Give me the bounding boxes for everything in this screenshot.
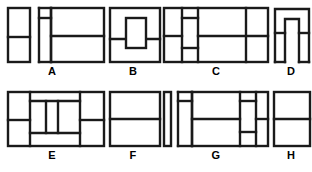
figure-art-b [108, 6, 162, 64]
figure-b-drawing [108, 6, 162, 64]
figure-cell-b: B [104, 0, 162, 86]
figure-a-drawing [6, 6, 106, 64]
figure-label-f: F [104, 150, 162, 161]
figure-cell-g: G [162, 86, 270, 172]
figure-art-a [6, 6, 106, 64]
figure-cell-c: C [162, 0, 270, 86]
figure-f-drawing [108, 90, 162, 148]
figure-label-c: C [162, 66, 270, 77]
figure-h-drawing [272, 90, 312, 148]
figure-label-h: H [270, 150, 312, 161]
figure-label-e: E [0, 150, 104, 161]
figure-cell-f: F [104, 86, 162, 172]
figure-g-drawing [162, 90, 270, 148]
figure-label-a: A [0, 66, 104, 77]
figure-art-d [272, 6, 312, 64]
figure-cell-a: A [0, 0, 104, 86]
figure-e-drawing [6, 90, 106, 148]
figure-cell-e: E [0, 86, 104, 172]
figure-sheet: A B [0, 0, 312, 172]
figure-art-c [162, 6, 270, 64]
figure-cell-d: D [270, 0, 312, 86]
figure-art-f [108, 90, 162, 148]
figure-label-b: B [104, 66, 162, 77]
figure-row-top: A B [0, 0, 312, 86]
figure-label-d: D [270, 66, 312, 77]
figure-art-h [272, 90, 312, 148]
figure-row-bottom: E F [0, 86, 312, 172]
figure-label-g: G [162, 150, 270, 161]
figure-c-drawing [162, 6, 270, 64]
figure-cell-h: H [270, 86, 312, 172]
figure-art-g [162, 90, 270, 148]
figure-art-e [6, 90, 106, 148]
figure-d-drawing [272, 6, 312, 64]
